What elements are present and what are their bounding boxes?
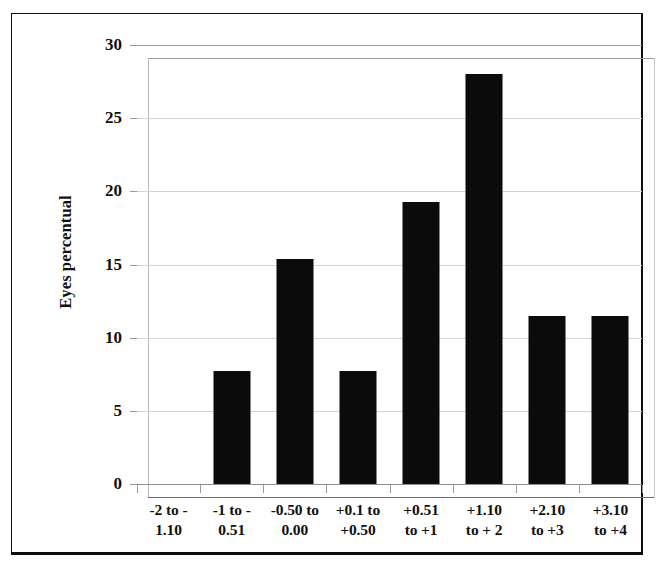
x-axis-label: +1.10to + 2 <box>453 500 516 540</box>
bar <box>592 316 629 484</box>
x-axis-label-line: to +1 <box>390 520 453 540</box>
y-tick-mark <box>130 118 137 119</box>
x-axis-label: -1 to -0.51 <box>200 500 263 540</box>
y-tick-mark <box>130 265 137 266</box>
x-tick-mark <box>390 485 391 493</box>
x-axis-label-line: -0.50 to <box>263 500 326 520</box>
y-tick-mark <box>130 191 137 192</box>
x-axis-label: +0.1 to+0.50 <box>326 500 389 540</box>
x-axis-label-line: to +3 <box>516 520 579 540</box>
x-axis-label: -2 to -1.10 <box>137 500 200 540</box>
y-tick-mark <box>130 45 137 46</box>
x-axis-label-line: -1 to - <box>200 500 263 520</box>
bar-slot <box>137 45 200 484</box>
x-axis-label-line: 0.00 <box>263 520 326 540</box>
y-tick-label: 20 <box>62 182 122 199</box>
y-tick-mark <box>130 484 137 485</box>
bar-slot <box>390 45 453 484</box>
x-tick-mark <box>137 485 138 493</box>
x-axis-label-line: +0.50 <box>326 520 389 540</box>
figure: Eyes percentual 051015202530 -2 to -1.10… <box>0 0 660 569</box>
y-tick-label: 30 <box>62 36 122 53</box>
bar-slot <box>263 45 326 484</box>
x-tick-mark <box>516 485 517 493</box>
x-axis-label-line: +0.1 to <box>326 500 389 520</box>
x-tick-mark <box>326 485 327 493</box>
bar <box>276 259 313 484</box>
bar-slot <box>579 45 642 484</box>
x-axis-label: +2.10to +3 <box>516 500 579 540</box>
bar-slot <box>200 45 263 484</box>
x-axis-label-line: +3.10 <box>579 500 642 520</box>
x-axis-line <box>148 497 654 498</box>
x-tick-mark <box>579 485 580 493</box>
y-tick-label: 10 <box>62 329 122 346</box>
x-axis-label-line: +2.10 <box>516 500 579 520</box>
bar-slot <box>326 45 389 484</box>
bar-slot <box>453 45 516 484</box>
x-axis-label: +0.51to +1 <box>390 500 453 540</box>
bar <box>466 74 503 484</box>
x-axis-label-line: +1.10 <box>453 500 516 520</box>
x-axis-label-line: 0.51 <box>200 520 263 540</box>
y-tick-label: 5 <box>62 402 122 419</box>
x-tick-mark <box>642 485 643 493</box>
y-tick-label: 15 <box>62 256 122 273</box>
x-tick-mark <box>200 485 201 493</box>
figure-frame: Eyes percentual 051015202530 -2 to -1.10… <box>11 13 643 555</box>
x-axis-label-line: to + 2 <box>453 520 516 540</box>
x-tick-mark <box>263 485 264 493</box>
x-axis-label-line: 1.10 <box>137 520 200 540</box>
bar <box>403 202 440 484</box>
bar <box>339 371 376 484</box>
x-axis-label-line: to +4 <box>579 520 642 540</box>
x-axis-label: -0.50 to0.00 <box>263 500 326 540</box>
x-axis-label: +3.10to +4 <box>579 500 642 540</box>
bar <box>529 316 566 484</box>
y-tick-label: 0 <box>62 475 122 492</box>
x-tick-mark <box>453 485 454 493</box>
y-tick-mark <box>130 411 137 412</box>
y-tick-label: 25 <box>62 109 122 126</box>
y-tick-mark <box>130 338 137 339</box>
x-axis-label-line: -2 to - <box>137 500 200 520</box>
x-axis-label-line: +0.51 <box>390 500 453 520</box>
bar <box>213 371 250 484</box>
bar-slot <box>516 45 579 484</box>
